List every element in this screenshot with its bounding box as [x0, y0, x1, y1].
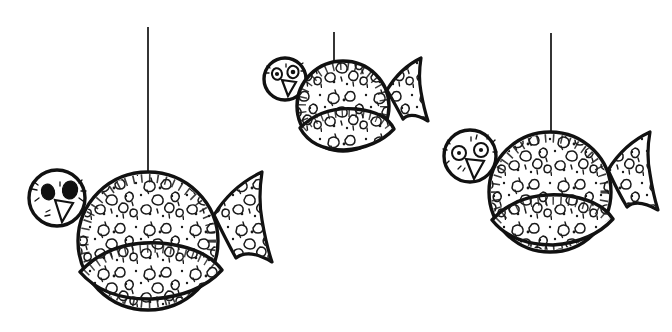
bird-left-head-outline — [29, 170, 85, 226]
bird-right-head — [443, 130, 497, 182]
illustration-canvas: Hand drawn black ink illustration of thr… — [0, 0, 672, 332]
bird-ornaments-drawing — [0, 0, 672, 332]
bird-left-head — [29, 170, 86, 226]
